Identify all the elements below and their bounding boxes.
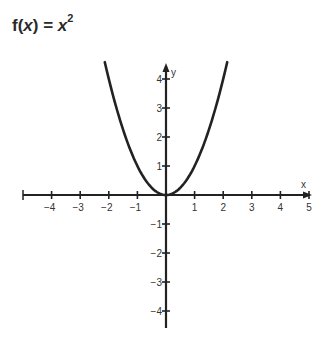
x-tick-label: 5	[306, 202, 312, 213]
x-tick-label: 1	[192, 202, 198, 213]
y-tick-label: −4	[151, 306, 163, 317]
x-tick-label: −4	[44, 202, 56, 213]
y-tick-label: 4	[156, 74, 162, 85]
y-tick-label: 3	[156, 103, 162, 114]
y-axis-arrow-icon	[163, 63, 170, 72]
y-tick-label: −2	[151, 248, 163, 259]
x-tick-label: −3	[72, 202, 84, 213]
x-tick-label: 3	[249, 202, 255, 213]
x-axis-arrow-icon	[303, 192, 312, 199]
x-axis-label: x	[301, 179, 306, 190]
y-tick-label: 1	[156, 161, 162, 172]
x-tick-label: 4	[278, 202, 284, 213]
plot-area: −4−3−2−1123454321−1−2−3−4 x y	[0, 0, 335, 343]
y-tick-label: −3	[151, 277, 163, 288]
x-tick-label: −1	[130, 202, 142, 213]
y-tick-label: 2	[156, 132, 162, 143]
x-tick-label: −2	[101, 202, 113, 213]
y-tick-label: −1	[151, 219, 163, 230]
y-axis-label: y	[171, 67, 176, 78]
x-tick-label: 2	[220, 202, 226, 213]
